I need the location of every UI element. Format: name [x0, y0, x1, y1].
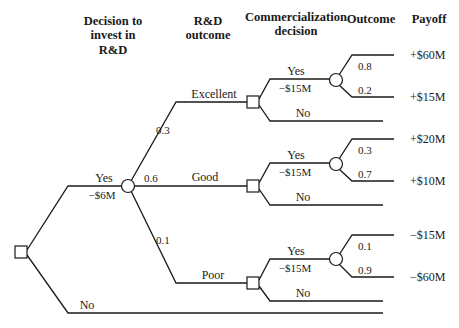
excellent-yes-cost: −$15M	[279, 82, 312, 94]
decision-tree-diagram: Decision to invest in R&D R&D outcome Co…	[0, 0, 459, 328]
root-decision: Yes −$6M No	[15, 171, 383, 313]
header-rd-outcome-line1: R&D	[194, 14, 222, 28]
header-decision-invest-line3: R&D	[99, 43, 127, 57]
good-yes-label: Yes	[287, 148, 305, 162]
header-payoff: Payoff	[412, 12, 448, 26]
good-no-branch	[259, 189, 383, 205]
excellent-yes-label: Yes	[287, 64, 305, 78]
header-outcome: Outcome	[347, 12, 396, 26]
header-commercialization-line2: decision	[274, 24, 317, 38]
poor-yes-cost: −$15M	[279, 262, 312, 274]
rd-chance: 0.3 Excellent 0.6 Good 0.1 Poor	[122, 87, 249, 283]
poor-no-branch	[259, 286, 383, 301]
good-yes-cost: −$15M	[279, 166, 312, 178]
poor-payoff-1: −$15M	[410, 228, 446, 242]
header-decision-invest-line1: Decision to	[84, 14, 143, 28]
good-payoff-1: +$20M	[410, 132, 446, 146]
rd-chance-node-circle-icon	[122, 180, 135, 193]
rd-label-excellent: Excellent	[191, 87, 237, 101]
good-outcome-prob-1: 0.3	[358, 144, 372, 156]
header-commercialization-line1: Commercialization	[245, 10, 347, 24]
rd-label-poor: Poor	[202, 268, 225, 282]
rd-prob-good: 0.6	[144, 172, 158, 184]
rd-branch-poor	[131, 191, 248, 283]
rd-prob-excellent: 0.3	[156, 124, 170, 136]
excellent-payoff-2: +$15M	[410, 90, 446, 104]
root-decision-node-square-icon	[15, 246, 27, 258]
rd-branch-excellent	[131, 102, 248, 181]
good-payoff-2: +$10M	[410, 174, 446, 188]
poor-chance-node-circle-icon	[330, 253, 343, 266]
header-rd-outcome-line2: outcome	[185, 28, 231, 42]
poor-outcome-prob-1: 0.1	[358, 240, 372, 252]
good-decision-node-square-icon	[247, 180, 259, 192]
excellent-no-label: No	[296, 106, 311, 120]
excellent-chance-node-circle-icon	[330, 74, 343, 87]
good-chance-node-circle-icon	[330, 158, 343, 171]
good-no-label: No	[296, 190, 311, 204]
root-yes-cost: −$6M	[89, 189, 116, 201]
excellent-no-branch	[259, 105, 383, 121]
rd-label-good: Good	[192, 170, 219, 184]
header-decision-invest-line2: invest in	[91, 28, 136, 42]
good-outcome-prob-2: 0.7	[358, 168, 372, 180]
column-headers: Decision to invest in R&D R&D outcome Co…	[84, 10, 448, 57]
poor-decision-node-square-icon	[247, 277, 259, 289]
commercialization-poor: Yes −$15M No 0.1 0.9 −$15M −$60M	[247, 228, 446, 301]
commercialization-good: Yes −$15M No 0.3 0.7 +$20M +$10M	[247, 132, 446, 205]
poor-yes-label: Yes	[287, 244, 305, 258]
excellent-decision-node-square-icon	[247, 96, 259, 108]
poor-outcome-prob-2: 0.9	[358, 264, 372, 276]
root-yes-label: Yes	[95, 171, 113, 185]
poor-payoff-2: −$60M	[410, 270, 446, 284]
commercialization-excellent: Yes −$15M No 0.8 0.2 +$60M +$15M	[247, 48, 446, 121]
rd-prob-poor: 0.1	[156, 234, 170, 246]
root-no-label: No	[80, 298, 95, 312]
excellent-payoff-1: +$60M	[410, 48, 446, 62]
poor-no-label: No	[296, 286, 311, 300]
excellent-outcome-prob-2: 0.2	[358, 84, 372, 96]
excellent-outcome-prob-1: 0.8	[358, 60, 372, 72]
